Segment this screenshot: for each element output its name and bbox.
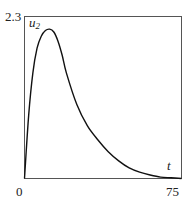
x-tick-min: 0 bbox=[16, 184, 23, 199]
x-tick-max: 75 bbox=[166, 184, 179, 199]
y-axis-label: u2 bbox=[29, 15, 41, 31]
y-tick-max: 2.3 bbox=[5, 9, 21, 24]
x-axis-label: t bbox=[167, 158, 171, 173]
chart: 2.3 u2 t 0 75 bbox=[0, 0, 191, 203]
plot-frame bbox=[25, 17, 182, 179]
u2-curve bbox=[25, 29, 182, 178]
